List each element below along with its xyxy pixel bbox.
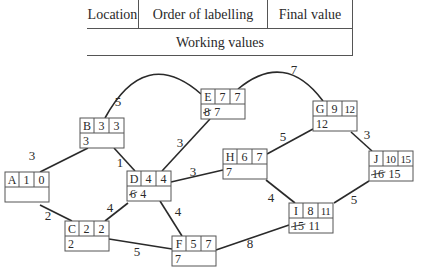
node-final-value: 7	[235, 90, 241, 104]
node-final-value: 2	[99, 222, 105, 236]
node-location: J	[374, 152, 379, 166]
working-value: 7	[226, 165, 232, 179]
edge-A-C: 2	[40, 205, 72, 223]
node-H: H677	[223, 149, 267, 179]
node-order: 10	[386, 153, 397, 165]
edge-D-F: 4	[160, 201, 182, 236]
network-graph: 321545334754835 A10B333C222D4464E7787F57…	[0, 0, 422, 276]
edge-weight-label: 4	[175, 204, 182, 219]
edge-D-H: 3	[171, 164, 223, 182]
working-value: 7	[214, 105, 220, 119]
node-order: 9	[332, 102, 338, 116]
edge-weight-label: 1	[117, 155, 124, 170]
edge-line	[109, 239, 172, 249]
working-value: 3	[83, 134, 89, 148]
edge-A-B: 3	[29, 148, 88, 172]
node-A: A10	[5, 172, 49, 202]
edge-D-E: 3	[162, 119, 210, 171]
working-value: 7	[175, 252, 181, 266]
node-location: D	[130, 172, 139, 186]
edge-E-G: 7	[238, 62, 323, 101]
edge-line	[267, 129, 313, 154]
node-final-value: 15	[401, 153, 412, 165]
edge-line	[238, 72, 323, 101]
node-D: D4464	[127, 171, 171, 201]
edge-C-D: 4	[105, 200, 128, 221]
node-final-value: 3	[114, 119, 120, 133]
edge-line	[171, 170, 223, 182]
node-order: 7	[220, 90, 226, 104]
node-E: E7787	[201, 89, 245, 119]
edge-weight-label: 4	[268, 190, 275, 205]
edge-weight-label: 3	[29, 148, 36, 163]
edge-weight-label: 3	[190, 164, 197, 179]
edge-weight-label: 2	[45, 208, 52, 223]
node-location: C	[68, 222, 76, 236]
node-final-value: 12	[345, 103, 355, 115]
edge-weight-label: 8	[247, 236, 254, 251]
edge-weight-label: 5	[134, 244, 141, 259]
node-location: A	[8, 173, 17, 187]
node-F: F577	[172, 236, 216, 266]
working-value: 4	[140, 187, 146, 201]
edge-H-I: 4	[266, 180, 295, 205]
edge-B-E: 5	[105, 74, 201, 118]
node-J: J10151615	[369, 151, 413, 181]
nodes-layer: A10B333C222D4464E7787F577G91212H677I8111…	[5, 89, 413, 266]
working-value: 2	[68, 237, 74, 251]
edge-weight-label: 5	[115, 94, 122, 109]
node-order: 5	[191, 237, 197, 251]
node-order: 2	[84, 222, 90, 236]
working-value: 15	[388, 167, 400, 181]
node-location: E	[204, 90, 211, 104]
node-order: 4	[146, 172, 152, 186]
edge-line	[162, 119, 210, 171]
node-final-value: 11	[321, 205, 331, 217]
node-location: G	[316, 102, 325, 116]
node-final-value: 0	[39, 173, 45, 187]
edge-F-I: 8	[216, 225, 289, 251]
node-order: 8	[308, 204, 314, 218]
edge-I-J: 5	[334, 181, 369, 207]
node-order: 6	[242, 150, 248, 164]
node-B: B333	[80, 118, 124, 148]
edge-weight-label: 7	[291, 62, 298, 77]
working-value: 12	[316, 117, 328, 131]
node-final-value: 7	[206, 237, 212, 251]
edge-weight-label: 4	[107, 200, 114, 215]
edge-line	[40, 148, 88, 172]
node-final-value: 4	[161, 172, 167, 186]
node-order: 1	[24, 173, 30, 187]
edge-weight-label: 5	[351, 192, 358, 207]
node-location: H	[226, 150, 235, 164]
node-location: B	[83, 119, 91, 133]
node-final-value: 7	[257, 150, 263, 164]
edge-C-F: 5	[109, 239, 172, 259]
node-G: G91212	[313, 101, 357, 131]
node-location: F	[176, 237, 183, 251]
edge-H-G: 5	[267, 129, 313, 154]
edge-weight-label: 5	[280, 129, 287, 144]
edge-B-D: 1	[114, 148, 135, 171]
node-C: C222	[65, 221, 109, 251]
node-order: 3	[99, 119, 105, 133]
edge-weight-label: 3	[364, 127, 371, 142]
edge-weight-label: 3	[177, 135, 184, 150]
working-value: 11	[308, 219, 320, 233]
node-location: I	[294, 204, 298, 218]
node-I: I8111511	[289, 203, 333, 233]
